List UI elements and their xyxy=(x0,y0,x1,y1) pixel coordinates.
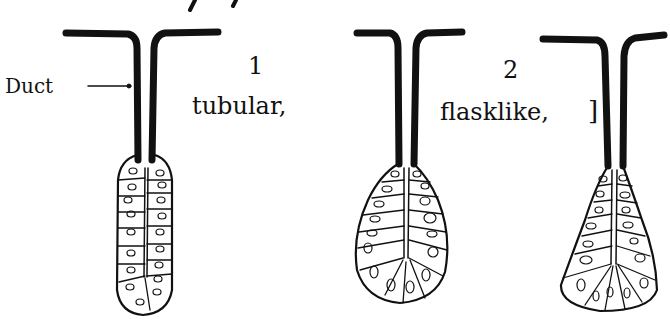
gland-1-number: 1 xyxy=(248,52,263,80)
duct-label: Duct xyxy=(5,74,53,98)
bracket-mark: ] xyxy=(588,96,598,126)
gland-2-body xyxy=(356,164,448,303)
gland-2-type-label: flasklike, xyxy=(440,98,549,126)
gland-2-number: 2 xyxy=(503,56,518,84)
gland-diagram xyxy=(0,0,670,332)
gland-3-body xyxy=(561,166,657,311)
gland-1-type-label: tubular, xyxy=(192,92,286,120)
gland-3-duct xyxy=(543,35,664,166)
gland-1-body xyxy=(117,155,172,315)
